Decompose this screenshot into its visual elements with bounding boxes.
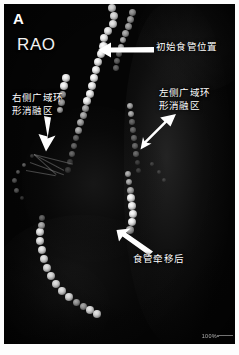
electrode-bead [40, 255, 49, 264]
electrode-bead [150, 162, 154, 166]
electrode-bead [90, 74, 98, 82]
electrode-bead [38, 222, 45, 229]
electrode-bead [129, 9, 136, 16]
electrode-bead [131, 135, 137, 141]
electrode-bead [93, 310, 101, 318]
electrode-bead [126, 179, 133, 186]
electrode-bead [126, 226, 134, 234]
electrode-bead [114, 58, 120, 64]
electrode-bead [65, 167, 71, 173]
electrode-bead [94, 58, 102, 66]
electrode-bead [128, 218, 136, 226]
electrode-bead [16, 170, 21, 175]
lower-left-tissue-shadow [4, 256, 110, 344]
cardiac-silhouette-shadow [22, 106, 165, 262]
electrode-bead [36, 228, 44, 236]
electrode-bead [47, 272, 55, 280]
electrode-bead [133, 151, 139, 157]
electrode-bead [127, 187, 134, 194]
electrode-bead [129, 119, 135, 125]
electrode-bead [127, 194, 135, 202]
electrode-bead [20, 196, 25, 201]
electrode-bead [100, 34, 109, 43]
electrode-bead [92, 66, 100, 74]
electrode-bead [12, 178, 17, 183]
electrode-bead [80, 112, 87, 119]
electrode-bead [128, 202, 136, 210]
electrode-bead [129, 210, 137, 218]
scale-label: 100% [202, 333, 217, 339]
electrode-bead [77, 119, 84, 126]
fluoroscopy-image: A RAO 初始食管位置 左侧广域环 形消融区 右侧广域环 形消融区 食管牵移后… [4, 4, 235, 344]
electrode-bead [108, 4, 117, 12]
electrode-bead [125, 23, 132, 30]
projection-label: RAO [17, 35, 56, 55]
electrode-bead [120, 37, 127, 44]
diaphragm-shadow [4, 215, 175, 344]
electrode-bead [113, 65, 119, 71]
electrode-bead [69, 151, 75, 157]
electrode-bead [73, 135, 80, 142]
electrode-bead [132, 143, 138, 149]
electrode-bead [135, 160, 140, 165]
electrode-bead [36, 237, 45, 246]
arrow-up-left-icon [116, 228, 154, 256]
electrode-bead [43, 264, 52, 273]
figure-panel-a: A RAO 初始食管位置 左侧广域环 形消融区 右侧广域环 形消融区 食管牵移后… [0, 0, 239, 355]
electrode-bead [83, 97, 91, 105]
annotation-initial-esophagus-position: 初始食管位置 [156, 41, 217, 52]
panel-label: A [13, 10, 24, 27]
scale-bar [219, 335, 233, 336]
electrode-bead [157, 170, 161, 174]
electrode-bead [82, 105, 89, 112]
spine-shadow [124, 4, 230, 344]
electrode-bead [38, 246, 47, 255]
electrode-bead [97, 50, 106, 59]
electrode-bead [60, 82, 68, 90]
annotation-left-ablation-zone-line1: 左侧广域环 [159, 87, 210, 98]
annotation-esophagus-after-deviation: 食管牵移后 [133, 253, 184, 264]
electrode-bead [58, 287, 66, 295]
electrode-bead [110, 12, 119, 21]
electrode-bead [22, 163, 27, 168]
electrode-bead [127, 16, 134, 23]
electrode-bead [14, 188, 19, 193]
arrow-down-icon [37, 116, 59, 152]
electrode-bead [130, 127, 136, 133]
annotation-right-ablation-zone-line2: 形消融区 [12, 105, 53, 116]
electrode-bead [57, 107, 64, 114]
electrode-bead [62, 74, 70, 82]
electrode-bead [73, 299, 80, 306]
electrode-bead [118, 44, 125, 51]
electrode-bead [125, 171, 132, 178]
electrode-bead [128, 111, 134, 117]
arrow-down-left-icon [140, 114, 178, 150]
electrode-bead [122, 30, 129, 37]
electrode-bead [136, 168, 141, 173]
annotation-left-ablation-zone-line2: 形消融区 [159, 100, 200, 111]
electrode-bead [39, 215, 46, 222]
electrode-bead [71, 143, 78, 150]
electrode-bead [116, 51, 123, 58]
electrode-bead [127, 103, 133, 109]
electrode-bead [65, 293, 73, 301]
electrode-bead [88, 82, 96, 90]
electrode-bead [162, 178, 166, 182]
electrode-bead [75, 127, 82, 134]
annotation-right-ablation-zone-line1: 右侧广域环 [12, 92, 63, 103]
